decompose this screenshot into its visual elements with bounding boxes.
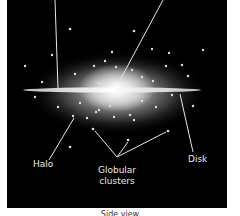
globular-clusters-label-line2: clusters bbox=[95, 176, 139, 186]
galaxy-side-view-panel: Halo Globular clusters Disk bbox=[7, 0, 227, 208]
globular-clusters-label-line1: Globular bbox=[95, 165, 139, 175]
globular-clusters-label: Globular clusters bbox=[95, 165, 139, 186]
disk-label: Disk bbox=[188, 154, 207, 164]
halo-label: Halo bbox=[33, 159, 53, 169]
galactic-disk bbox=[23, 87, 201, 92]
figure-caption: Side view bbox=[0, 210, 240, 216]
leader-line-globular-3 bbox=[117, 132, 166, 157]
